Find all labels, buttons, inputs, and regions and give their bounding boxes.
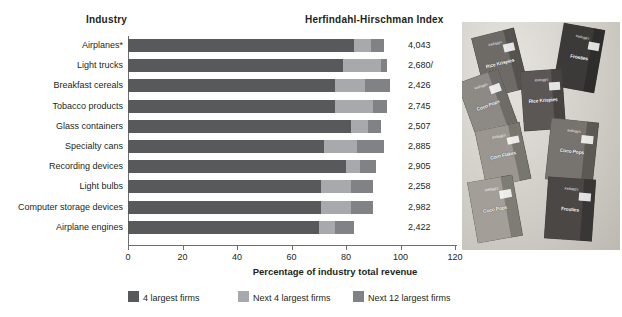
x-tick-mark [346,245,347,250]
bar-segment-series-0 [128,140,324,153]
legend-item[interactable]: Next 12 largest firms [353,287,451,300]
x-axis-title: Percentage of industry total revenue [205,266,465,277]
category-label: Glass containers [5,121,123,131]
hhi-value: 2,745 [408,101,454,111]
bar-segment-series-2 [365,79,390,92]
x-tick-mark [237,245,238,250]
bar-segment-series-1 [335,100,373,113]
bar-segment-series-0 [128,201,321,214]
bar-segment-series-0 [128,160,346,173]
column-header-hhi: Herfindahl-Hirschman Index [305,14,444,25]
bar-segment-series-1 [346,160,360,173]
cereal-box: Kellogg'sFrosties [544,176,596,241]
legend-swatch-icon [353,291,364,302]
x-tick-mark [183,245,184,250]
bar-chart-plot-area [128,36,455,245]
legend-label: Next 4 largest firms [253,293,331,303]
legend-item[interactable]: 4 largest firms [128,287,200,300]
bar-segment-series-1 [321,180,351,193]
bar-segment-series-1 [354,39,370,52]
bar-segment-series-2 [351,201,373,214]
hhi-value: 2,258 [408,181,454,191]
legend-label: 4 largest firms [143,293,200,303]
x-tick-mark [128,245,129,250]
bar-segment-series-2 [371,39,385,52]
bar-segment-series-2 [368,120,382,133]
legend-swatch-icon [128,291,139,302]
bar-segment-series-2 [360,160,376,173]
chart-legend: 4 largest firmsNext 4 largest firmsNext … [128,287,458,301]
x-tick-mark [455,245,456,250]
x-tick-label: 40 [222,252,252,262]
bar-segment-series-2 [357,140,384,153]
bar-segment-series-0 [128,79,335,92]
x-tick-label: 120 [440,252,470,262]
bar-segment-series-1 [324,140,357,153]
hhi-value: 2,426 [408,80,454,90]
category-label: Airplane engines [5,222,123,232]
x-axis-line [128,245,457,246]
bar-segment-series-2 [351,180,373,193]
bar-segment-series-1 [343,59,381,72]
bar-segment-series-0 [128,59,343,72]
hhi-value: 2,422 [408,222,454,232]
x-tick-label: 100 [386,252,416,262]
cereal-box-highlight [587,42,599,52]
legend-item[interactable]: Next 4 largest firms [238,287,331,300]
bar-segment-series-2 [381,59,386,72]
bar-segment-series-1 [321,201,351,214]
x-tick-label: 20 [168,252,198,262]
category-label: Specialty cans [5,141,123,151]
bar-segment-series-1 [351,120,367,133]
x-tick-mark [401,245,402,250]
category-label: Airplanes* [5,40,123,50]
hhi-value: 2,507 [408,121,454,131]
x-tick-label: 80 [331,252,361,262]
legend-swatch-icon [238,291,249,302]
bar-segment-series-2 [335,221,354,234]
legend-label: Next 12 largest firms [368,293,451,303]
category-label: Tobacco products [5,101,123,111]
hhi-value: 4,043 [408,40,454,50]
cereal-box-highlight [549,82,560,91]
cereal-box-highlight [578,192,591,201]
cereal-box-highlight [581,135,594,144]
bar-segment-series-1 [335,79,365,92]
bar-segment-series-0 [128,221,319,234]
category-label: Recording devices [5,161,123,171]
category-label: Breakfast cereals [5,80,123,90]
bar-segment-series-0 [128,39,354,52]
x-tick-mark [292,245,293,250]
bar-segment-series-0 [128,180,321,193]
bar-segment-series-0 [128,100,335,113]
cereal-boxes-photo: Kellogg'sRice KrispiesKellogg'sFrostiesK… [462,22,620,250]
bar-segment-series-2 [373,100,387,113]
hhi-value: 2,905 [408,161,454,171]
category-label: Light bulbs [5,181,123,191]
category-label: Computer storage devices [5,202,123,212]
hhi-value: 2,982 [408,202,454,212]
x-tick-label: 0 [113,252,143,262]
bar-segment-series-1 [319,221,335,234]
cereal-box: Kellogg'sCoco Pops [545,118,599,185]
hhi-value: 2,885 [408,141,454,151]
bar-segment-series-0 [128,120,351,133]
figure-root: Industry Herfindahl-Hirschman Index Airp… [0,0,622,317]
hhi-value: 2,680/ [408,60,454,70]
column-header-industry: Industry [86,14,127,25]
category-label: Light trucks [5,60,123,70]
x-tick-label: 60 [277,252,307,262]
